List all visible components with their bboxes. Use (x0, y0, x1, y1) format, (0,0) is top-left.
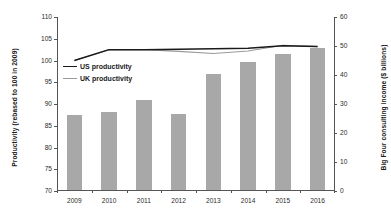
chart-legend: US productivity UK productivity (63, 60, 132, 84)
right-tick-label: 20 (340, 129, 380, 136)
line-series-group (57, 17, 335, 191)
legend-label-uk: UK productivity (80, 75, 132, 82)
legend-line-swatch-us (63, 66, 77, 67)
right-tick-label: 0 (340, 187, 380, 194)
left-tick-label: 100 (12, 57, 52, 64)
right-tick-label: 40 (340, 71, 380, 78)
line-uk-productivity (74, 45, 317, 60)
left-tick-label: 110 (12, 13, 52, 20)
productivity-consulting-income-chart: Productivity (rebased to 100 in 2009) Bi… (0, 0, 391, 221)
legend-item-us: US productivity (63, 60, 132, 72)
left-tick-label: 70 (12, 187, 52, 194)
legend-line-swatch-uk (63, 78, 77, 79)
legend-label-us: US productivity (80, 63, 132, 70)
right-tick-label: 60 (340, 13, 380, 20)
left-axis-title: Productivity (rebased to 100 in 2009) (11, 28, 18, 188)
left-tick-label: 90 (12, 100, 52, 107)
right-tick-label: 30 (340, 100, 380, 107)
left-tick-label: 95 (12, 78, 52, 85)
right-tick-label: 50 (340, 42, 380, 49)
right-axis-title: Big Four consulting income ($ billions) (380, 28, 387, 188)
left-tick-label: 80 (12, 144, 52, 151)
left-tick-label: 75 (12, 165, 52, 172)
line-us-productivity (74, 46, 317, 61)
plot-area: 110105100959085807570 6050403020100 2009… (57, 17, 335, 191)
left-tick-label: 85 (12, 122, 52, 129)
right-tick-label: 10 (340, 158, 380, 165)
x-tick-label: 2016 (298, 197, 338, 204)
left-tick-label: 105 (12, 35, 52, 42)
legend-item-uk: UK productivity (63, 72, 132, 84)
